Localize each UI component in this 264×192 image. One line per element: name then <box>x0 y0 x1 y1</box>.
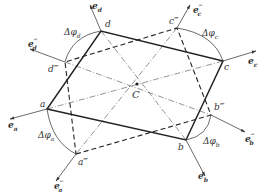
label-c: c <box>224 63 229 72</box>
label-dphi-a: Δφa <box>38 131 54 142</box>
original-quad <box>47 31 223 140</box>
rotation-diagram: d c‴ c d‴ C a a‴ b b‴ ed e‴c ec e‴d ea e… <box>0 0 264 192</box>
label-d: d <box>105 20 111 29</box>
label-e-a3: e‴a <box>54 180 62 192</box>
label-dphi-b: Δφb <box>203 137 220 148</box>
label-e-c: ec <box>248 57 257 68</box>
label-e-c3: e‴c <box>193 4 201 17</box>
vertex-dots <box>135 82 138 85</box>
label-C: C <box>132 90 140 100</box>
label-c3: c‴ <box>169 17 179 26</box>
label-dphi-d: Δφd <box>64 28 81 39</box>
label-e-b3: e‴b <box>245 133 254 146</box>
label-e-d3: e‴d <box>28 38 37 51</box>
label-a: a <box>40 100 45 109</box>
label-d3: d‴ <box>48 65 58 74</box>
label-dphi-c: Δφc <box>202 29 218 40</box>
label-b: b <box>178 143 184 152</box>
label-b3: b‴ <box>214 103 224 112</box>
label-e-d: ed <box>92 2 102 13</box>
label-e-b: eb <box>198 172 208 183</box>
label-e-a: ea <box>8 121 18 132</box>
label-a3: a‴ <box>78 158 88 167</box>
